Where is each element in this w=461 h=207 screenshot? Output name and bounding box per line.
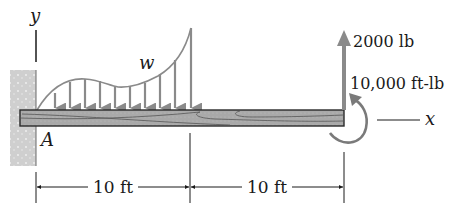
distributed-load-label: w [139,52,155,73]
y-axis-label: y [29,5,41,26]
beam-diagram: y w A [0,0,461,207]
beam [20,110,344,126]
dimension-label-1: 10 ft [93,177,133,197]
support-label-A: A [39,129,54,150]
moment-label: 10,000 ft-lb [350,74,444,93]
distributed-load [37,28,191,110]
point-force-arrow [337,30,351,110]
dimension-label-2: 10 ft [247,177,287,197]
x-axis-label: x [425,108,435,129]
dimension-lines [36,133,344,203]
point-force-label: 2000 lb [353,32,414,51]
